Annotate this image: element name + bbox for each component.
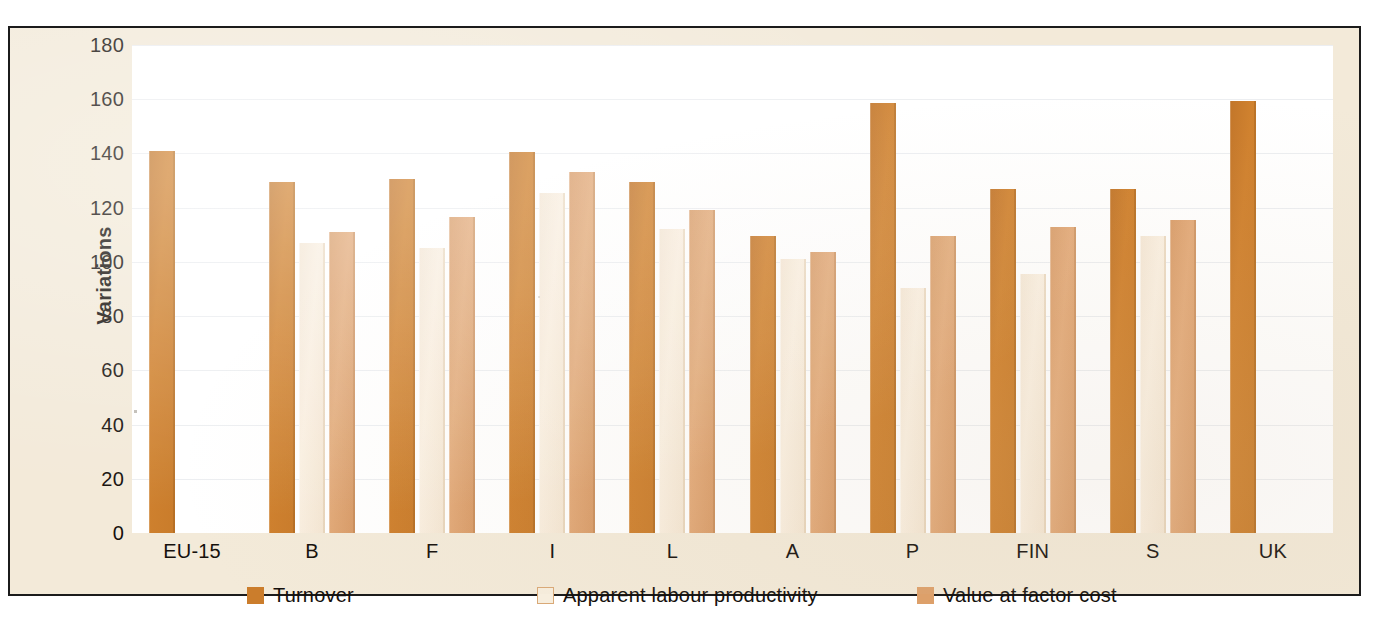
x-axis-tick: FIN bbox=[1016, 540, 1049, 563]
scan-speck bbox=[538, 296, 540, 298]
bar-factorcost bbox=[810, 252, 836, 533]
x-axis-tick: EU-15 bbox=[163, 540, 221, 563]
bar-productivity bbox=[419, 248, 445, 533]
y-axis-tick: 40 bbox=[62, 415, 124, 435]
bar-turnover bbox=[870, 103, 896, 533]
bar-turnover bbox=[990, 189, 1016, 533]
x-axis: EU-15BFILAPFINSUK bbox=[132, 540, 1333, 574]
y-axis-tick: 180 bbox=[62, 35, 124, 55]
x-axis-tick: P bbox=[906, 540, 920, 563]
bar-factorcost bbox=[569, 172, 595, 533]
legend-label: Turnover bbox=[273, 584, 354, 607]
bar-factorcost bbox=[689, 210, 715, 533]
bar-group bbox=[973, 45, 1093, 533]
chart-panel: 020406080100120140160180 Variations EU-1… bbox=[8, 26, 1361, 596]
y-axis-tick: 0 bbox=[62, 523, 124, 543]
bar-group bbox=[492, 45, 612, 533]
bar-productivity bbox=[299, 243, 325, 533]
legend-item: Apparent labour productivity bbox=[537, 584, 818, 607]
x-axis-tick: A bbox=[786, 540, 800, 563]
bar-productivity bbox=[659, 229, 685, 533]
bar-turnover bbox=[509, 152, 535, 533]
bar-group bbox=[1213, 45, 1333, 533]
bar-productivity bbox=[1020, 274, 1046, 533]
bar-factorcost bbox=[1050, 227, 1076, 533]
bar-productivity bbox=[1140, 236, 1166, 533]
bar-factorcost bbox=[449, 217, 475, 533]
bar-turnover bbox=[750, 236, 776, 533]
bar-factorcost bbox=[930, 236, 956, 533]
legend-swatch-icon bbox=[247, 587, 264, 604]
y-axis-tick: 20 bbox=[62, 469, 124, 489]
bar-group bbox=[372, 45, 492, 533]
bar-group bbox=[1093, 45, 1213, 533]
bar-factorcost bbox=[1170, 220, 1196, 533]
bar-group bbox=[853, 45, 973, 533]
x-axis-tick: L bbox=[667, 540, 678, 563]
legend-label: Apparent labour productivity bbox=[563, 584, 818, 607]
bar-group bbox=[252, 45, 372, 533]
chart-figure: 020406080100120140160180 Variations EU-1… bbox=[0, 0, 1373, 619]
y-axis-tick: 160 bbox=[62, 89, 124, 109]
scan-speck bbox=[134, 410, 137, 413]
y-axis-tick: 140 bbox=[62, 143, 124, 163]
bar-productivity bbox=[539, 193, 565, 533]
legend-swatch-icon bbox=[917, 587, 934, 604]
plot-area bbox=[132, 45, 1333, 533]
x-axis-tick: S bbox=[1146, 540, 1160, 563]
legend-item: Turnover bbox=[247, 584, 354, 607]
bar-productivity bbox=[780, 259, 806, 533]
bar-turnover bbox=[149, 151, 175, 533]
bar-turnover bbox=[1230, 101, 1256, 533]
bar-group bbox=[132, 45, 252, 533]
bar-turnover bbox=[269, 182, 295, 533]
bar-turnover bbox=[629, 182, 655, 533]
bar-factorcost bbox=[329, 232, 355, 533]
bar-turnover bbox=[1110, 189, 1136, 533]
x-axis-tick: I bbox=[549, 540, 555, 563]
bar-productivity bbox=[900, 288, 926, 533]
chart-legend: TurnoverApparent labour productivityValu… bbox=[132, 584, 1333, 614]
x-axis-tick: F bbox=[426, 540, 438, 563]
y-axis-label: Variations bbox=[93, 176, 116, 376]
x-axis-tick: B bbox=[305, 540, 319, 563]
legend-item: Value at factor cost bbox=[917, 584, 1117, 607]
legend-label: Value at factor cost bbox=[943, 584, 1117, 607]
bar-group bbox=[612, 45, 732, 533]
legend-swatch-icon bbox=[537, 587, 554, 604]
bar-turnover bbox=[389, 179, 415, 533]
x-axis-tick: UK bbox=[1259, 540, 1287, 563]
bar-group bbox=[733, 45, 853, 533]
